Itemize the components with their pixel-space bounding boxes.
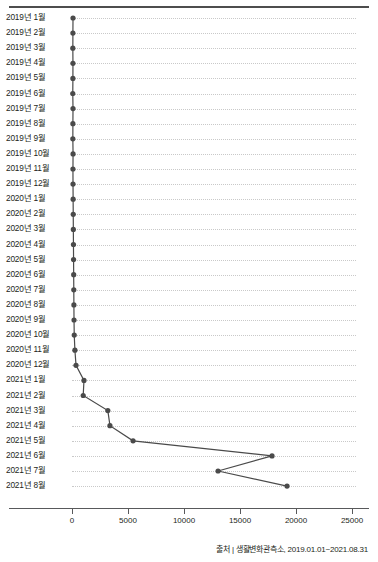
x-tick-label: 0 <box>70 516 74 525</box>
data-point-marker <box>71 257 76 262</box>
data-point-marker <box>107 423 112 428</box>
series-line-chart <box>0 12 378 504</box>
data-point-marker <box>70 136 75 141</box>
x-tick <box>240 508 241 514</box>
data-point-marker <box>105 408 110 413</box>
data-point-marker <box>81 393 86 398</box>
data-point-marker <box>70 182 75 187</box>
x-tick-label: 10000 <box>173 516 195 525</box>
data-point-marker <box>215 468 220 473</box>
x-tick <box>184 508 185 514</box>
data-point-marker <box>130 438 135 443</box>
data-point-marker <box>72 348 77 353</box>
data-point-marker <box>70 31 75 36</box>
data-point-marker <box>71 287 76 292</box>
data-point-marker <box>70 121 75 126</box>
data-point-marker <box>81 378 86 383</box>
data-point-marker <box>70 166 75 171</box>
data-point-marker <box>71 197 76 202</box>
x-tick-label: 20000 <box>285 516 307 525</box>
chart-page: 2019년 1월2019년 2월2019년 3월2019년 4월2019년 5월… <box>0 0 378 562</box>
data-point-marker <box>71 242 76 247</box>
x-tick <box>72 508 73 514</box>
data-point-marker <box>70 15 75 20</box>
data-point-marker <box>73 363 78 368</box>
data-point-marker <box>71 317 76 322</box>
data-point-marker <box>284 484 289 489</box>
data-point-marker <box>71 212 76 217</box>
data-point-marker <box>71 302 76 307</box>
series-line <box>73 18 287 486</box>
data-point-marker <box>70 61 75 66</box>
data-point-marker <box>269 453 274 458</box>
data-point-marker <box>70 91 75 96</box>
x-axis-line <box>9 508 369 509</box>
chart-plot-area: 2019년 1월2019년 2월2019년 3월2019년 4월2019년 5월… <box>0 12 378 504</box>
x-tick-label: 5000 <box>119 516 137 525</box>
data-point-marker <box>70 151 75 156</box>
x-tick <box>296 508 297 514</box>
data-point-marker <box>71 272 76 277</box>
x-tick-label: 15000 <box>229 516 251 525</box>
x-tick <box>352 508 353 514</box>
data-point-marker <box>70 46 75 51</box>
data-point-marker <box>70 76 75 81</box>
x-tick-label: 25000 <box>341 516 363 525</box>
x-tick <box>128 508 129 514</box>
data-point-marker <box>71 227 76 232</box>
data-point-marker <box>72 333 77 338</box>
source-note: 출처 | 생활변화관측소, 2019.01.01~2021.08.31 <box>216 543 368 554</box>
top-divider <box>9 6 369 8</box>
data-point-marker <box>70 106 75 111</box>
